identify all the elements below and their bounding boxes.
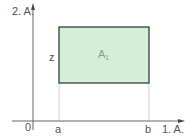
y-axis-label: 2. A. bbox=[12, 6, 34, 17]
x-mark-b: b bbox=[145, 124, 151, 135]
height-label: z bbox=[49, 52, 55, 63]
diagram-canvas bbox=[0, 0, 195, 138]
x-mark-a: a bbox=[55, 124, 61, 135]
area-label: A1 bbox=[98, 49, 109, 61]
origin-label: 0 bbox=[25, 122, 31, 133]
area-label-subscript: 1 bbox=[105, 54, 109, 61]
x-axis-label: 1. A. bbox=[162, 124, 184, 135]
